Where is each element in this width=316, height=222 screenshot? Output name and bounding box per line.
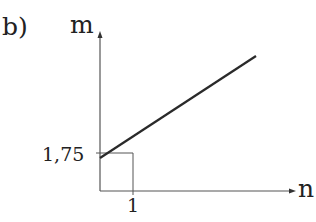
data-line (100, 56, 256, 158)
projection-guides (96, 153, 133, 195)
x-axis (100, 189, 296, 194)
y-axis (98, 31, 103, 191)
x-axis-arrow-icon (289, 189, 296, 194)
chart-canvas (0, 0, 316, 222)
y-axis-arrow-icon (98, 31, 103, 38)
